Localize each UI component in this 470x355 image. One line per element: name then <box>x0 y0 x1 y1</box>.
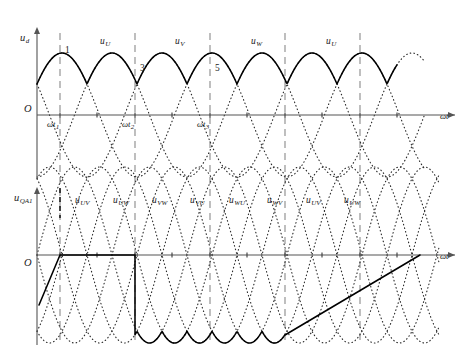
line-voltage-label-5: uWU <box>229 195 246 207</box>
thyristor-voltage-curve <box>39 255 420 343</box>
line-voltage-label-6: uWV <box>267 195 283 207</box>
commutation-number-1: 1 <box>65 45 70 55</box>
phase-label-1: uU <box>100 36 111 48</box>
line-voltage-label-4: uVU <box>190 195 205 207</box>
bottom-x-axis-label: ωt <box>440 251 449 261</box>
phase-label-2: uV <box>175 36 185 48</box>
bottom-origin-label: O <box>24 257 32 268</box>
top-origin-label: O <box>24 103 32 114</box>
bottom-y-axis-label: uQA1 <box>14 192 32 205</box>
bottom-x-axis-arrow <box>448 252 455 258</box>
phase-label-4: uU <box>326 36 337 48</box>
top-x-axis-label: ωt <box>440 111 449 121</box>
top-x-axis-arrow <box>448 112 455 118</box>
line-voltage-label-1: uUV <box>75 195 90 207</box>
top-y-axis-arrow <box>34 27 40 34</box>
top-tick-label-1: ωt1 <box>47 119 59 131</box>
commutation-number-3: 3 <box>140 63 145 73</box>
line-voltage-label-2: uUW <box>113 195 130 207</box>
dashed-guide-lines <box>60 33 360 345</box>
line-voltage-label-3: uVW <box>152 195 168 207</box>
line-voltage-label-7: uUV <box>306 195 321 207</box>
waveform-figure: uduUuVuWuU135ωt1ωt2ωt3OωtuQA1uUVuUWuVWuV… <box>0 0 470 355</box>
phase-label-3: uW <box>251 36 263 48</box>
top-tick-label-2: ωt2 <box>122 119 135 131</box>
line-voltage-label-8: uUW <box>344 195 361 207</box>
top-y-axis-label: ud <box>20 32 30 45</box>
top-tick-label-3: ωt3 <box>197 119 210 131</box>
commutation-number-5: 5 <box>215 63 220 73</box>
bottom-y-axis-arrow <box>34 187 40 194</box>
